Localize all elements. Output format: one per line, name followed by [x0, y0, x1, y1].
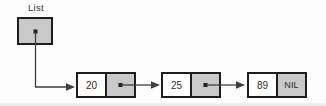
list-node: 20 [76, 72, 136, 98]
node-value-cell: 89 [249, 74, 276, 96]
list-head-pointer-box [17, 17, 53, 45]
list-node: 25 [161, 72, 221, 98]
list-node: 89 NIL [247, 72, 307, 98]
nil-cell: NIL [278, 74, 305, 96]
head-to-node1-arrowhead [66, 83, 75, 91]
scan-shadow [0, 102, 326, 106]
node1-to-node2-arrowhead [151, 81, 160, 89]
list-head-label: List [17, 2, 55, 13]
node-pointer-cell [107, 74, 134, 96]
node-value-cell: 25 [163, 74, 190, 96]
nil-label: NIL [284, 80, 299, 90]
linked-list-diagram: List 20 25 89 NIL [0, 0, 326, 106]
node-pointer-cell [192, 74, 219, 96]
node2-to-node3-arrowhead [236, 81, 245, 89]
node-value-cell: 20 [78, 74, 105, 96]
